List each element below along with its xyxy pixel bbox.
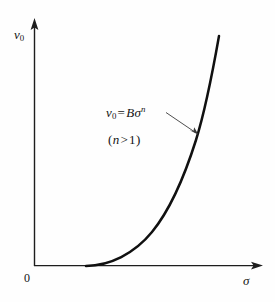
x-axis-label: σ — [243, 274, 249, 287]
equation-exponent: n — [141, 104, 146, 114]
y-axis-label-subscript: 0 — [20, 33, 24, 43]
condition-operator: > — [119, 132, 129, 147]
condition-value: 1 — [129, 132, 136, 147]
equation-annotation: v0=Bσn — [106, 104, 146, 121]
equation-operator: = — [117, 105, 127, 120]
figure-container: v0 σ 0 v0=Bσn (n>1) — [0, 0, 275, 302]
condition-annotation: (n>1) — [108, 132, 141, 148]
figure-canvas — [0, 0, 275, 302]
y-axis-label: v0 — [14, 28, 24, 43]
origin-label-value: 0 — [24, 271, 30, 285]
x-axis-label-symbol: σ — [243, 273, 249, 288]
origin-label: 0 — [24, 272, 30, 284]
condition-close-paren: ) — [136, 132, 141, 147]
equation-lhs-subscript: 0 — [112, 111, 116, 121]
plot-background — [0, 0, 275, 302]
